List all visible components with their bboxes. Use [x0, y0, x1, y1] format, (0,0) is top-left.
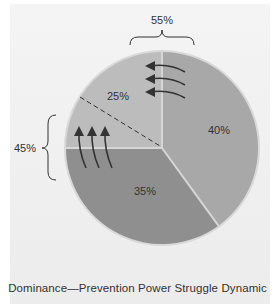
slice-25-label: 25%	[107, 90, 129, 102]
slice-35-label: 35%	[134, 185, 156, 197]
pie-chart: 55% 45% 40% 35% 25%	[0, 0, 275, 308]
chart-caption: Dominance—Prevention Power Struggle Dyna…	[0, 282, 275, 294]
left-brace-label: 45%	[14, 142, 36, 154]
slice-40-label: 40%	[208, 124, 230, 136]
top-brace-label: 55%	[151, 14, 173, 26]
left-brace	[42, 115, 56, 180]
top-brace	[130, 30, 194, 45]
